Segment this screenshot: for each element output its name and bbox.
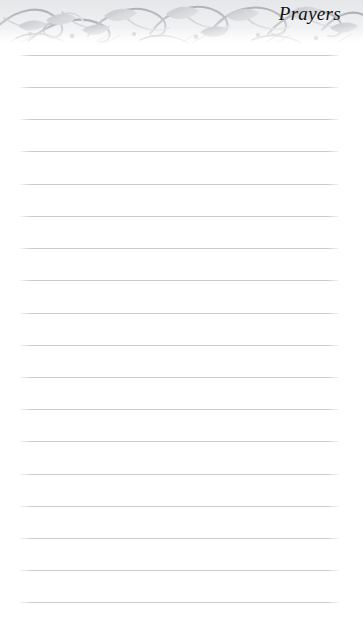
rule-line[interactable]	[20, 506, 339, 507]
rule-line[interactable]	[20, 151, 339, 152]
rule-line[interactable]	[20, 570, 339, 571]
ruled-lines	[0, 0, 363, 628]
rule-line[interactable]	[20, 409, 339, 410]
rule-line[interactable]	[20, 216, 339, 217]
rule-line[interactable]	[20, 441, 339, 442]
rule-line[interactable]	[20, 119, 339, 120]
rule-line[interactable]	[20, 313, 339, 314]
rule-line[interactable]	[20, 87, 339, 88]
rule-line[interactable]	[20, 248, 339, 249]
rule-line[interactable]	[20, 602, 339, 603]
rule-line[interactable]	[20, 184, 339, 185]
rule-line[interactable]	[20, 55, 339, 56]
rule-line[interactable]	[20, 377, 339, 378]
journal-page: Prayers	[0, 0, 363, 628]
rule-line[interactable]	[20, 280, 339, 281]
rule-line[interactable]	[20, 474, 339, 475]
rule-line[interactable]	[20, 538, 339, 539]
rule-line[interactable]	[20, 345, 339, 346]
